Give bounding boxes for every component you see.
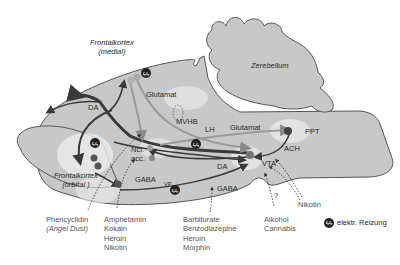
vta-label: VTA [262,159,276,168]
ach-label: ACH [284,144,300,153]
stimulation-icon-lh: ϟϟ [191,139,201,149]
svg-text:ϟϟ: ϟϟ [193,142,200,148]
svg-text:ϟϟ: ϟϟ [92,141,99,147]
gaba-right-label: GABA [217,184,238,193]
ppt-label: PPT [305,127,320,136]
da-upper-label: DA [88,103,98,112]
lightning-stimulation-icon: ϟϟ [324,218,334,228]
lh-label: LH [205,125,215,134]
sedatives-list: Barbiturate Benzodiazepine Heroin Morphi… [183,215,236,253]
cerebellum-label: Zerebellum [251,61,289,70]
phencyclidin-label: Phencyclidin (Angel Dust) [46,215,88,234]
alcohol-list: Alkohol Cannabis [264,215,296,234]
gaba-left-label: GABA [135,175,156,184]
frontal-medial-label: Frontalkortex (medial) [90,38,134,57]
glutamat-upper-label: Glutamat [146,90,176,99]
stimulants-list: Amphetamin Kokain Heroin Nikotin [104,215,146,253]
glutamat-lower-label: Glutamat [230,123,260,132]
frontal-orbital-label: Frontalkortex (orbital ) [54,171,98,190]
vp-label: VP [164,181,171,188]
mvhb-label: MVHB [176,117,198,126]
stimulation-icon-ncl-acc: ϟϟ [90,138,100,148]
svg-text:ϟϟ: ϟϟ [172,188,179,194]
nikotin-label: Nikotin [298,200,321,209]
question-label: ? [274,191,278,200]
ncl-acc-label: Ncl. acc. [131,145,145,164]
svg-text:ϟϟ: ϟϟ [143,71,150,77]
legend: ϟϟ elektr. Reizung [324,218,387,228]
stimulation-icon-medial: ϟϟ [141,68,151,78]
stimulation-icon-vp: ϟϟ [170,185,180,195]
legend-label: elektr. Reizung [337,218,387,227]
da-lower-label: DA [217,162,227,171]
